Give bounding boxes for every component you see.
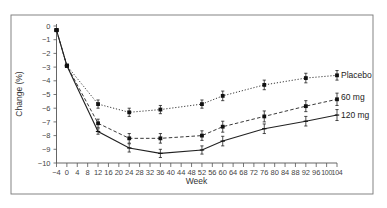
x-tick-label: 68 [239, 168, 247, 177]
x-tick-label: 60 [219, 168, 227, 177]
data-point-marker [200, 102, 204, 106]
data-point-marker [335, 97, 339, 101]
x-tick-label: 104 [332, 169, 343, 176]
x-tick-label: 80 [270, 168, 278, 177]
data-point-marker [127, 136, 131, 140]
y-tick-label: −6 [42, 104, 51, 113]
y-axis-title: Change (%) [14, 71, 24, 117]
x-tick-label: −4 [52, 168, 61, 177]
legend-label-60mg: 60 mg [341, 92, 365, 102]
chart-canvas: 0−1−2−3−4−5−6−7−8−9−10−40481216202428323… [0, 0, 387, 208]
x-tick-label: 8 [86, 168, 90, 177]
x-tick-label: 12 [94, 168, 102, 177]
y-tick-label: −9 [42, 145, 51, 154]
x-tick-label: 36 [156, 168, 164, 177]
y-tick-label: −8 [42, 131, 51, 140]
data-point-marker [262, 115, 266, 119]
x-tick-label: 0 [65, 168, 69, 177]
legend-label-120mg: 120 mg [341, 110, 370, 120]
data-point-marker [335, 73, 339, 77]
y-tick-label: −2 [42, 49, 51, 58]
x-tick-label: 4 [75, 168, 79, 177]
data-point-marker [221, 125, 225, 129]
x-tick-label: 32 [146, 168, 154, 177]
x-tick-label: 96 [312, 168, 320, 177]
data-point-marker [304, 76, 308, 80]
x-tick-label: 40 [167, 168, 175, 177]
x-tick-label: 56 [208, 168, 216, 177]
y-tick-label: 0 [46, 22, 50, 31]
x-tick-label: 88 [291, 168, 299, 177]
data-point-marker [158, 108, 162, 112]
data-point-marker [96, 121, 100, 125]
data-point-marker [55, 28, 59, 32]
x-tick-label: 24 [125, 168, 133, 177]
data-point-marker [65, 64, 69, 68]
x-tick-label: 44 [177, 168, 185, 177]
x-tick-label: 84 [281, 168, 289, 177]
x-tick-label: 92 [302, 168, 310, 177]
data-point-marker [262, 83, 266, 87]
y-tick-label: −1 [42, 35, 51, 44]
legend-label-placebo: Placebo [341, 70, 372, 80]
x-tick-label: 28 [135, 168, 143, 177]
x-tick-label: 64 [229, 168, 237, 177]
x-tick-label: 16 [104, 168, 112, 177]
y-tick-label: −4 [42, 76, 51, 85]
y-tick-label: −7 [42, 118, 51, 127]
data-point-marker [304, 104, 308, 108]
y-tick-label: −3 [42, 63, 51, 72]
data-point-marker [127, 110, 131, 114]
y-tick-label: −5 [42, 90, 51, 99]
x-tick-label: 20 [115, 168, 123, 177]
x-tick-label: 76 [260, 168, 268, 177]
x-axis-title: Week [186, 176, 208, 186]
data-point-marker [158, 136, 162, 140]
data-point-marker [200, 134, 204, 138]
data-point-marker [96, 102, 100, 106]
x-tick-label: 72 [250, 168, 258, 177]
data-point-marker [221, 94, 225, 98]
y-tick-label: −10 [38, 159, 51, 168]
